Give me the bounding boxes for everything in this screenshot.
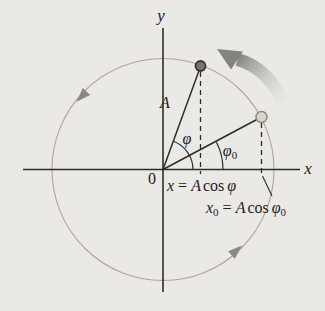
eq-x0-arg-subscript: 0: [281, 206, 287, 218]
y-axis-label: y: [157, 7, 165, 24]
reference-circle-canvas: [0, 0, 325, 311]
eq-x0-equals: =: [219, 199, 236, 216]
eq-x-equals: =: [174, 177, 191, 194]
rotation-arrow-body: [238, 60, 284, 104]
phasor-current: [163, 67, 201, 170]
eq-x0-amplitude: A: [236, 199, 246, 216]
circle-direction-arrow-lower-right: [228, 246, 242, 259]
eq-x0-arg: φ: [272, 199, 281, 216]
eq-x-cos: cos: [203, 177, 224, 194]
origin-label: 0: [148, 171, 156, 187]
phase-angle-label: φ: [183, 131, 192, 147]
initial-phase-subscript: 0: [232, 149, 238, 161]
eq-x0-cos: cos: [247, 199, 268, 216]
x0-projection-equation: x0 = Acosφ0: [206, 200, 286, 218]
x-axis-label: x: [304, 160, 312, 177]
initial-point-dot: [256, 112, 267, 123]
x-projection-equation: x = Acosφ: [167, 178, 236, 194]
initial-phase-angle-label: φ0: [223, 143, 237, 161]
initial-phase-symbol: φ: [223, 142, 232, 159]
eq-x-arg: φ: [227, 177, 236, 194]
x0-leader-line: [263, 176, 273, 196]
eq-x-amplitude: A: [191, 177, 201, 194]
circle-direction-arrow-upper-left: [77, 88, 91, 102]
amplitude-label: A: [160, 95, 170, 111]
reference-circle-figure: y x 0 A φ φ0 x = Acosφ x0 = Acosφ0: [0, 0, 325, 311]
moving-point-dot: [196, 61, 206, 71]
